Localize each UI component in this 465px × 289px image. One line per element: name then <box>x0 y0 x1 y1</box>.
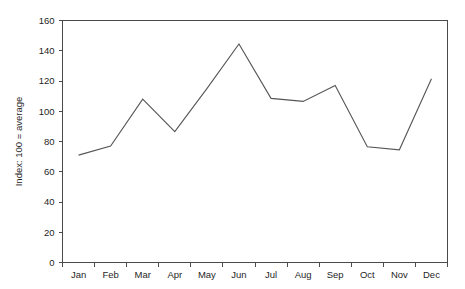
x-tick-label: Sep <box>327 269 344 280</box>
y-tick-label: 140 <box>39 45 55 56</box>
y-tick-label: 20 <box>44 227 55 238</box>
line-chart: 020406080100120140160JanFebMarAprMayJunJ… <box>0 0 465 289</box>
y-tick-label: 160 <box>39 15 55 26</box>
y-tick-label: 100 <box>39 106 55 117</box>
x-tick-label: Nov <box>391 269 408 280</box>
x-tick-label: Jan <box>71 269 86 280</box>
y-tick-label: 40 <box>44 196 55 207</box>
x-tick-label: Mar <box>135 269 151 280</box>
x-tick-label: May <box>198 269 216 280</box>
x-tick-label: Oct <box>360 269 375 280</box>
y-tick-label: 0 <box>49 257 54 268</box>
y-tick-label: 120 <box>39 75 55 86</box>
y-tick-label: 80 <box>44 136 55 147</box>
chart-canvas: 020406080100120140160JanFebMarAprMayJunJ… <box>0 0 465 289</box>
y-tick-label: 60 <box>44 166 55 177</box>
data-series-line <box>79 44 432 155</box>
x-tick-label: Jul <box>265 269 277 280</box>
x-tick-label: Dec <box>423 269 440 280</box>
x-tick-label: Apr <box>167 269 182 280</box>
x-tick-label: Feb <box>102 269 118 280</box>
x-tick-label: Jun <box>231 269 246 280</box>
x-tick-label: Aug <box>295 269 312 280</box>
y-axis-title: Index: 100 = average <box>13 97 24 187</box>
